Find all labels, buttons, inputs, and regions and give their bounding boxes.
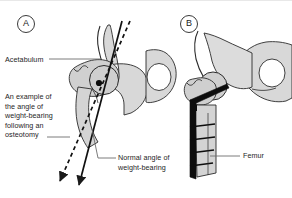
label-acetabulum: Acetabulum bbox=[5, 55, 43, 65]
label-femur: Femur bbox=[243, 151, 264, 161]
panel-b-obturator-foramen-left bbox=[147, 64, 171, 91]
panel-b-obturator-foramen-right bbox=[259, 59, 285, 87]
anatomical-figure: A B Acetabulum An example of the angle o… bbox=[0, 0, 292, 198]
femoral-head-center-dot bbox=[96, 80, 102, 86]
panel-tag-a: A bbox=[17, 15, 35, 33]
panel-tag-b: B bbox=[180, 15, 198, 33]
label-osteotomy-example: An example of the angle of weight-bearin… bbox=[5, 92, 67, 140]
label-normal-angle: Normal angle of weight-bearing bbox=[118, 153, 192, 172]
panel-b-acetabular-rim bbox=[195, 31, 204, 78]
panel-b-femoral-shaft bbox=[195, 105, 216, 177]
